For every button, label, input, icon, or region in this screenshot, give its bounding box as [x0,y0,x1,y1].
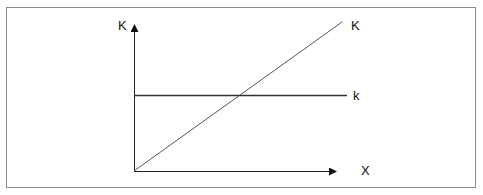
horizontal-line-label: k [353,89,360,102]
y-axis-label: K [118,19,127,32]
diagonal-line-label: K [351,19,360,32]
diagonal-line [134,22,342,171]
x-axis-label: X [361,164,370,177]
diagram-canvas [0,0,483,195]
